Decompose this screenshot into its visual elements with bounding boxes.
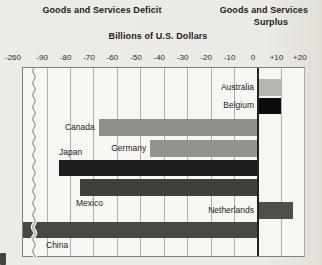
- bar-label-australia: Australia: [23, 82, 254, 93]
- tick-label--90: -90: [36, 52, 48, 63]
- tick-label--30: -30: [177, 52, 189, 63]
- gridline-10: [281, 68, 282, 256]
- surplus-title-line1: Goods and Services: [188, 4, 308, 16]
- tick-label-10: +10: [270, 52, 284, 63]
- zero-axis-line: [257, 68, 260, 256]
- bar-label-china: China: [46, 240, 68, 251]
- axis-break-squiggle: [23, 68, 47, 258]
- tick-label-20: +20: [293, 52, 307, 63]
- tick-label--70: -70: [83, 52, 95, 63]
- tick-label--260: -260: [5, 52, 21, 63]
- bar-japan: [59, 160, 258, 177]
- bar-mexico: [80, 179, 258, 196]
- tick-label--40: -40: [153, 52, 165, 63]
- bar-label-canada: Canada: [23, 122, 95, 133]
- bar-label-germany: Germany: [23, 143, 146, 154]
- tick-label--80: -80: [60, 52, 72, 63]
- gridline-20: [304, 68, 305, 256]
- bar-label-netherlands: Netherlands: [23, 205, 254, 216]
- deficit-title: Goods and Services Deficit: [20, 4, 184, 16]
- tick-label--10: -10: [224, 52, 236, 63]
- trade-balance-chart: Goods and Services Deficit Goods and Ser…: [0, 0, 322, 265]
- tick-label--60: -60: [107, 52, 119, 63]
- bar-belgium: [258, 98, 281, 115]
- tick-label--20: -20: [200, 52, 212, 63]
- scan-artifact: [0, 253, 6, 265]
- bar-germany: [150, 140, 258, 157]
- surplus-title-line2: Surplus: [188, 16, 308, 28]
- bar-canada: [99, 119, 258, 136]
- bar-australia: [258, 79, 281, 96]
- surplus-title: Goods and Services Surplus: [188, 4, 308, 28]
- bar-netherlands: [258, 202, 293, 219]
- bar-china: [23, 222, 258, 239]
- plot-area: AustraliaBelgiumCanadaGermanyJapanMexico…: [22, 67, 305, 257]
- bar-label-belgium: Belgium: [23, 100, 254, 111]
- bar-label-japan: Japan: [59, 147, 82, 158]
- tick-label-0: 0: [251, 52, 255, 63]
- tick-label--50: -50: [130, 52, 142, 63]
- axis-title: Billions of U.S. Dollars: [60, 30, 256, 42]
